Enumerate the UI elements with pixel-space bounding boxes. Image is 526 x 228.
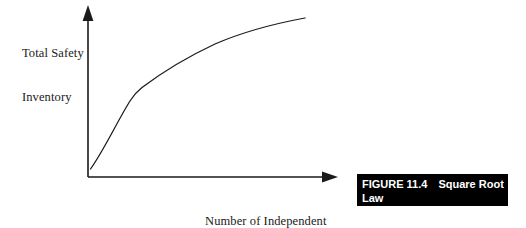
- y-axis-label-line-1: Total Safety: [22, 46, 84, 61]
- y-axis-label: Total Safety Inventory: [22, 17, 84, 133]
- figure-caption-line-1: FIGURE 11.4Square Root: [362, 177, 508, 191]
- figure-caption-number: FIGURE 11.4: [362, 178, 427, 190]
- x-axis-label-line-1: Number of Independent: [205, 214, 327, 228]
- x-axis-label: Number of Independent Stocking Locations: [205, 185, 327, 228]
- y-axis-arrowhead: [83, 5, 94, 21]
- figure-caption-line-2: Law: [362, 191, 508, 205]
- figure-caption-box: FIGURE 11.4Square Root Law: [357, 174, 508, 206]
- figure-caption-title-part-1: Square Root: [438, 178, 503, 190]
- figure-square-root-law: Total Safety Inventory Number of Indepen…: [0, 0, 526, 228]
- y-axis-label-line-2: Inventory: [22, 90, 84, 105]
- x-axis-arrowhead: [322, 172, 338, 183]
- square-root-curve: [91, 18, 306, 169]
